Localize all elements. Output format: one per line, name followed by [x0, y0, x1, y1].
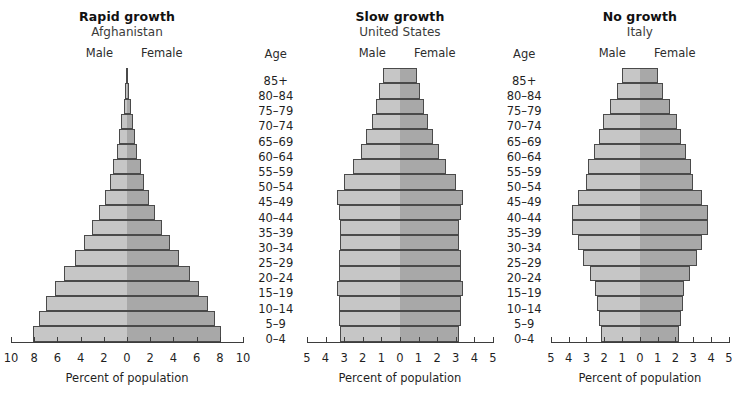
bar-spacer-right [461, 266, 493, 281]
pyramid-bar-row [307, 205, 493, 220]
bar-spacer-right [708, 220, 729, 235]
bar-male [353, 159, 400, 174]
bar-spacer-left [11, 83, 125, 98]
bar-spacer-right [144, 174, 243, 189]
age-group-label: 65–69 [503, 135, 546, 150]
axis-tick [693, 337, 694, 343]
pyramid-bar-row [551, 281, 729, 296]
bar-male [597, 296, 640, 311]
bar-female [640, 68, 658, 83]
pyramid-bar-row [307, 190, 493, 205]
pyramid-bar-row [307, 250, 493, 265]
bar-male [610, 99, 640, 114]
pyramid-bar-row [11, 144, 243, 159]
age-group-label: 60–64 [503, 150, 546, 165]
bar-spacer-left [551, 190, 578, 205]
pyramid-bar-row [551, 250, 729, 265]
age-group-label: 75–79 [503, 104, 546, 119]
bar-female [400, 174, 456, 189]
bar-spacer-left [551, 311, 599, 326]
pyramid-bar-row [551, 190, 729, 205]
bar-male [617, 83, 640, 98]
age-group-label: 60–64 [254, 150, 297, 165]
age-group-label: 20–24 [503, 271, 546, 286]
axis-tick [127, 337, 128, 343]
bar-spacer-right [702, 190, 729, 205]
bar-female [127, 174, 144, 189]
axis-tick [381, 337, 382, 343]
bar-male [594, 144, 640, 159]
bar-spacer-left [551, 114, 603, 129]
axis-tick-label: 10 [236, 351, 251, 365]
age-group-label: 45–49 [254, 196, 297, 211]
bar-female [400, 220, 460, 235]
bar-female [400, 205, 461, 220]
axis-tick-label: 4 [170, 351, 177, 365]
age-group-label: 80–84 [254, 89, 297, 104]
bar-spacer-right [459, 220, 492, 235]
pyramid-bar-row [307, 235, 493, 250]
bar-spacer-right [690, 266, 729, 281]
axis-tick-label: 0 [636, 351, 643, 365]
bar-male [117, 144, 127, 159]
bar-spacer-right [686, 144, 729, 159]
bar-spacer-right [133, 114, 243, 129]
legend-male: Male [297, 46, 400, 60]
bar-male [599, 129, 640, 144]
bar-spacer-left [307, 250, 339, 265]
bar-spacer-left [551, 205, 572, 220]
pyramid-bar-row [307, 114, 493, 129]
bar-spacer-right [420, 83, 493, 98]
axis-tick-label: 3 [340, 351, 347, 365]
axis-tick [363, 337, 364, 343]
axis-tick-label: 1 [415, 351, 422, 365]
bar-spacer-right [137, 144, 243, 159]
legend-male: Male [546, 46, 640, 60]
axis-tick-label: 1 [618, 351, 625, 365]
axis-tick-label: 3 [690, 351, 697, 365]
bar-spacer-right [428, 114, 493, 129]
bar-male [572, 205, 640, 220]
axis-tick [493, 337, 494, 343]
panel-subtitle: United States [297, 26, 502, 40]
bar-male [603, 114, 640, 129]
bar-spacer-left [11, 159, 113, 174]
bar-spacer-right [417, 68, 493, 83]
bar-spacer-left [307, 144, 361, 159]
age-group-label: 30–34 [254, 241, 297, 256]
bar-spacer-right [702, 235, 729, 250]
bar-spacer-left [551, 129, 599, 144]
bar-female [400, 326, 460, 341]
age-group-label: 35–39 [254, 226, 297, 241]
legend-female: Female [400, 46, 503, 60]
pyramid-bar-row [307, 281, 493, 296]
age-group-label: 5–9 [503, 317, 546, 332]
sex-legend: Male Female [297, 46, 502, 60]
bar-female [640, 311, 681, 326]
legend-female: Female [127, 46, 254, 60]
age-group-label: 25–29 [503, 256, 546, 271]
axis-tick [711, 337, 712, 343]
bar-spacer-left [307, 68, 383, 83]
bar-spacer-left [551, 235, 578, 250]
bar-spacer-right [663, 83, 729, 98]
bar-spacer-left [11, 220, 92, 235]
axis-tick-label: 5 [303, 351, 310, 365]
bar-spacer-left [307, 129, 367, 144]
bar-female [640, 114, 677, 129]
pyramid-bar-row [551, 99, 729, 114]
x-axis-tick-labels: 1086420246810 [11, 351, 243, 367]
axis-tick [474, 337, 475, 343]
bar-male [595, 281, 640, 296]
age-label-column-1: Age 85+80–8475–7970–7465–6960–6455–5950–… [254, 0, 297, 405]
bar-male [379, 83, 399, 98]
bar-spacer-right [459, 235, 492, 250]
bar-male [55, 281, 127, 296]
bar-spacer-right [190, 266, 243, 281]
axis-tick [622, 337, 623, 343]
bar-spacer-left [551, 220, 572, 235]
bar-male [46, 296, 127, 311]
pyramid-bar-row [307, 266, 493, 281]
bar-spacer-left [551, 326, 601, 341]
pyramid-bar-row [11, 266, 243, 281]
